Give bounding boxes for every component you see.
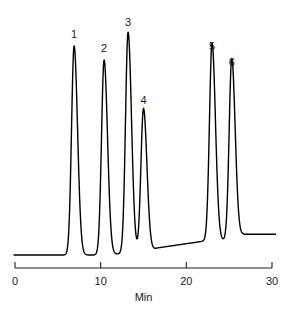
x-axis-ticks (15, 262, 272, 268)
peak-label-2: 2 (101, 42, 107, 54)
x-axis-tick-label-20: 20 (180, 275, 192, 287)
peak-label-1: 1 (71, 28, 77, 40)
x-axis-tick-label-30: 30 (266, 275, 278, 287)
peak-label-5: 5 (209, 40, 215, 52)
x-axis-title: Min (135, 291, 153, 303)
x-axis-tick-label-10: 10 (95, 275, 107, 287)
peak-label-3: 3 (125, 16, 131, 28)
chromatogram-figure: 0 10 20 30 Min 123456 (0, 0, 287, 313)
peak-label-6: 6 (229, 56, 235, 68)
x-axis-tick-label-0: 0 (12, 275, 18, 287)
chromatogram-plot: 0 10 20 30 Min 123456 (0, 0, 287, 313)
peak-label-4: 4 (140, 94, 146, 106)
chromatogram-trace (14, 32, 275, 255)
